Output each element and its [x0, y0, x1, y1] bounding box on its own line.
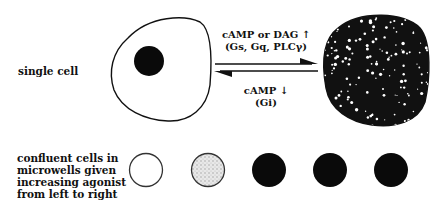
microwell-5: [374, 153, 408, 187]
single-cell-unstimulated: [111, 18, 211, 121]
equilibrium-arrows: [214, 58, 318, 77]
reverse-reaction-label: cAMP ↓ (Gi): [211, 85, 321, 109]
microwell-4: [313, 153, 347, 187]
microwell-2: [192, 154, 225, 187]
confluent-label-line: increasing agonist: [17, 176, 137, 188]
nucleus: [134, 46, 164, 76]
confluent-cells-label: confluent cells in microwells given incr…: [17, 152, 137, 200]
microwell-3: [252, 153, 286, 187]
arrowhead-left-icon: [214, 71, 232, 77]
confluent-label-line: from left to right: [17, 188, 137, 200]
forward-condition: cAMP or DAG ↑: [211, 29, 321, 41]
forward-mediators: (Gs, Gq, PLCγ): [211, 41, 321, 53]
microwell-row: [130, 153, 409, 187]
confluent-label-line: confluent cells in: [17, 152, 137, 164]
confluent-label-line: microwells given: [17, 164, 137, 176]
arrowhead-right-icon: [300, 58, 318, 64]
reverse-condition: cAMP ↓: [211, 85, 321, 97]
single-cell-label: single cell: [18, 65, 78, 77]
reverse-mediators: (Gi): [211, 97, 321, 109]
forward-reaction-label: cAMP or DAG ↑ (Gs, Gq, PLCγ): [211, 29, 321, 53]
single-cell-stimulated: [321, 11, 433, 129]
